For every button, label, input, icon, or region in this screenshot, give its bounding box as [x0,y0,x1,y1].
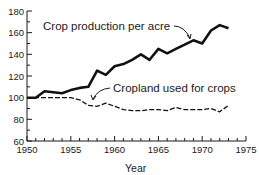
y-tick-label: 180 [8,6,24,17]
x-tick-label: 1960 [104,144,125,155]
y-tick-label: 80 [13,114,24,125]
x-tick-label: 1970 [192,144,213,155]
series-label-production: Crop production per acre [43,20,170,32]
x-tick-label: 1975 [235,144,256,155]
y-axis: 6080100120140160180 [8,6,32,147]
x-tick-label: 1965 [148,144,169,155]
y-tick-label: 160 [8,27,24,38]
series-label-cropland: Cropland used for crops [113,82,236,94]
y-tick-label: 120 [8,71,24,82]
line-chart: 6080100120140160180 19501955196019651970… [0,0,259,175]
x-axis-label: Year [125,162,147,174]
y-tick-label: 140 [8,49,24,60]
x-tick-label: 1955 [60,144,81,155]
series-lines [27,25,229,112]
series-line-cropland [27,98,229,112]
x-axis: 195019551960196519701975 [16,136,256,155]
x-tick-label: 1950 [16,144,37,155]
y-tick-label: 100 [8,92,24,103]
